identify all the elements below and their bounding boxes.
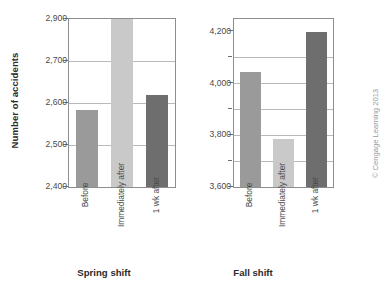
figure-bar-chart-accidents: Number of accidents 2,4002,5002,6002,700… bbox=[0, 0, 386, 306]
y-axis-tick-label: 3,600 bbox=[197, 181, 231, 191]
y-axis-tick-minor bbox=[228, 108, 232, 109]
y-axis-tick-minor bbox=[228, 56, 232, 57]
y-axis-tick-label: 2,400 bbox=[33, 181, 67, 191]
y-axis-tick-label: 2,500 bbox=[33, 139, 67, 149]
y-axis-tick-label: 2,900 bbox=[33, 13, 67, 23]
x-axis-category-text: Before bbox=[81, 183, 91, 208]
copyright-credit: © Cengage Learning 2013 bbox=[366, 58, 386, 208]
bar bbox=[111, 19, 133, 187]
x-axis-category-label: Immediately after bbox=[266, 190, 299, 262]
copyright-credit-label: © Cengage Learning 2013 bbox=[372, 88, 381, 177]
x-axis-category-label: 1 wk after bbox=[139, 190, 174, 262]
bar bbox=[76, 110, 98, 187]
x-axis-category-label: Immediately after bbox=[103, 190, 138, 262]
y-axis-tick-label: 3,800 bbox=[197, 129, 231, 139]
y-axis-tick-label: 2,700 bbox=[33, 55, 67, 65]
x-axis-category-label: Before bbox=[68, 190, 103, 262]
x-axis-category-text: Before bbox=[245, 183, 255, 208]
x-axis-category-text: Immediately after bbox=[116, 163, 126, 227]
y-axis-tick-label: 4,200 bbox=[197, 26, 231, 36]
panel-spring-shift: 2,4002,5002,6002,7002,900 BeforeImmediat… bbox=[28, 0, 180, 306]
x-axis-labels-spring-shift: BeforeImmediately after1 wk after bbox=[68, 188, 174, 264]
x-axis-category-label: Before bbox=[233, 190, 266, 262]
y-axis-title-label: Number of accidents bbox=[10, 52, 21, 148]
x-axis-category-label: 1 wk after bbox=[299, 190, 332, 262]
x-axis-category-text: 1 wk after bbox=[311, 177, 321, 213]
y-axis-tick-minor bbox=[228, 160, 232, 161]
panel-caption-fall-shift: Fall shift bbox=[177, 267, 329, 278]
bar bbox=[240, 72, 260, 187]
y-axis-title: Number of accidents bbox=[2, 10, 28, 190]
x-axis-category-text: Immediately after bbox=[278, 163, 288, 227]
x-axis-labels-fall-shift: BeforeImmediately after1 wk after bbox=[233, 188, 332, 264]
panel-caption-spring-shift: Spring shift bbox=[28, 267, 180, 278]
y-axis-tick-label: 2,600 bbox=[33, 97, 67, 107]
bar bbox=[146, 95, 168, 187]
x-axis-category-text: 1 wk after bbox=[151, 177, 161, 213]
bar bbox=[306, 32, 326, 187]
y-axis-tick-label: 4,000 bbox=[197, 78, 231, 88]
panel-fall-shift: 3,6003,8004,0004,200 BeforeImmediately a… bbox=[183, 0, 335, 306]
